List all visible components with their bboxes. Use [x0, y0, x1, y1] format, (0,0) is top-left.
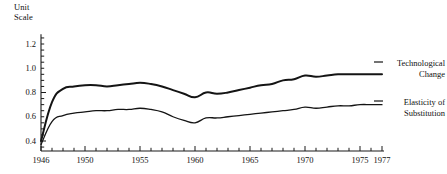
series-line-technological-change — [41, 74, 382, 141]
y-tick-label: 0.4 — [14, 137, 36, 146]
x-tick-label: 1950 — [68, 156, 102, 165]
x-tick-label: 1977 — [365, 156, 399, 165]
chart-figure: Unit Scale 1.21.00.80.60.4 1946195019551… — [0, 0, 447, 174]
x-tick-label: 1946 — [24, 156, 58, 165]
series-label-technological-change: Technological Change — [383, 58, 445, 79]
y-tick-label: 1.0 — [14, 64, 36, 73]
y-tick-label: 0.6 — [14, 112, 36, 121]
series-label-elasticity-of-substitution: Elasticity of Substitution — [383, 97, 445, 118]
x-tick-label: 1955 — [123, 156, 157, 165]
x-tick-label: 1970 — [288, 156, 322, 165]
series-line-elasticity-of-substitution — [41, 105, 382, 145]
y-tick-label: 0.8 — [14, 88, 36, 97]
y-tick-label: 1.2 — [14, 40, 36, 49]
x-tick-label: 1960 — [178, 156, 212, 165]
x-tick-label: 1965 — [233, 156, 267, 165]
chart-curves — [41, 74, 382, 144]
chart-plot-area — [0, 0, 447, 174]
legend-leader-lines — [374, 62, 383, 101]
